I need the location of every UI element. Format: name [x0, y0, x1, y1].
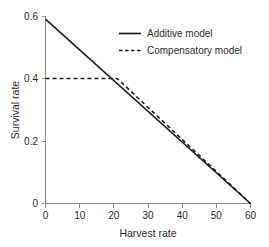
x-tick-marks — [46, 204, 251, 208]
x-axis-title: Harvest rate — [119, 227, 176, 239]
legend-label-additive: Additive model — [147, 28, 213, 39]
x-tick-label-10: 10 — [74, 210, 86, 221]
legend-label-compensatory: Compensatory model — [147, 45, 242, 56]
x-tick-label-50: 50 — [211, 210, 223, 221]
x-tick-label-0: 0 — [43, 210, 49, 221]
y-tick-labels: 0 0.2 0.4 0.6 — [24, 11, 38, 210]
y-tick-label-0.2: 0.2 — [24, 136, 38, 147]
y-tick-marks — [42, 16, 46, 204]
y-tick-label-0.4: 0.4 — [24, 73, 38, 84]
y-tick-label-0: 0 — [32, 198, 38, 209]
x-tick-labels: 0 10 20 30 40 50 60 — [43, 210, 257, 221]
x-tick-label-40: 40 — [177, 210, 189, 221]
x-tick-label-60: 60 — [245, 210, 257, 221]
chart-figure: 0 0.2 0.4 0.6 0 10 20 30 40 50 60 Harves… — [0, 0, 269, 247]
x-tick-label-30: 30 — [142, 210, 154, 221]
x-tick-label-20: 20 — [108, 210, 120, 221]
survival-vs-harvest-line-chart: 0 0.2 0.4 0.6 0 10 20 30 40 50 60 Harves… — [0, 0, 269, 247]
y-tick-label-0.6: 0.6 — [24, 11, 38, 22]
series-compensatory-model — [46, 79, 251, 204]
y-axis-title: Survival rate — [9, 81, 21, 140]
chart-legend: Additive model Compensatory model — [119, 28, 242, 56]
